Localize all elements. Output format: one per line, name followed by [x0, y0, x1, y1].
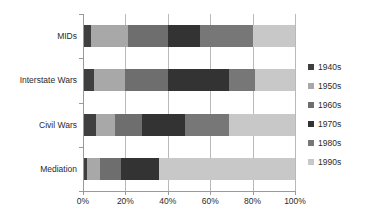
bar-segment	[229, 69, 254, 91]
bar-segment	[255, 69, 295, 91]
bar-segment	[200, 25, 253, 47]
category-label-mids: MIDs	[57, 31, 77, 41]
legend-swatch-icon	[308, 140, 314, 146]
bar-row	[83, 25, 295, 47]
x-tick-mark	[168, 191, 169, 195]
bar-segment	[91, 25, 127, 47]
plot-area	[83, 14, 295, 191]
bar-segment	[121, 158, 159, 180]
bar-segment	[142, 114, 184, 136]
legend-swatch-icon	[308, 121, 314, 127]
legend-swatch-icon	[308, 159, 314, 165]
bar-segment	[168, 69, 229, 91]
legend-swatch-icon	[308, 83, 314, 89]
y-tick-mark	[79, 14, 83, 15]
bar-segment	[83, 25, 91, 47]
stacked-bar-chart: MIDsInterstate WarsCivil WarsMediation 0…	[0, 0, 366, 223]
legend-item-1940s[interactable]: 1940s	[308, 57, 341, 76]
bar-segment	[125, 69, 167, 91]
bar-segment	[115, 114, 143, 136]
bar-segment	[83, 69, 94, 91]
legend-label: 1970s	[318, 119, 341, 129]
y-tick-mark	[79, 147, 83, 148]
category-label-mediation: Mediation	[40, 164, 77, 174]
x-tick-mark	[125, 191, 126, 195]
legend-swatch-icon	[308, 102, 314, 108]
x-tick-mark	[253, 191, 254, 195]
x-tick-label: 100%	[284, 196, 306, 207]
legend-label: 1960s	[318, 100, 341, 110]
category-label-civil-wars: Civil Wars	[39, 120, 77, 130]
bar-segment	[100, 158, 121, 180]
legend-label: 1980s	[318, 138, 341, 148]
category-label-interstate-wars: Interstate Wars	[20, 75, 77, 85]
x-tick-label: 40%	[159, 196, 176, 207]
legend-item-1960s[interactable]: 1960s	[308, 95, 341, 114]
x-tick-mark	[295, 191, 296, 195]
x-tick-label: 60%	[202, 196, 219, 207]
legend-label: 1940s	[318, 62, 341, 72]
bar-segment	[168, 25, 200, 47]
legend-swatch-icon	[308, 64, 314, 70]
x-tick-label: 20%	[117, 196, 134, 207]
bar-segment	[185, 114, 230, 136]
x-tick-mark	[83, 191, 84, 195]
bar-segment	[253, 25, 295, 47]
y-tick-mark	[79, 58, 83, 59]
y-tick-mark	[79, 103, 83, 104]
bar-row	[83, 69, 295, 91]
legend-item-1970s[interactable]: 1970s	[308, 114, 341, 133]
y-axis-line	[83, 14, 84, 191]
gridline-100	[295, 14, 296, 191]
bar-row	[83, 114, 295, 136]
legend-item-1980s[interactable]: 1980s	[308, 133, 341, 152]
bar-segment	[96, 114, 115, 136]
bar-segment	[128, 25, 168, 47]
bar-segment	[83, 114, 96, 136]
legend-item-1950s[interactable]: 1950s	[308, 76, 341, 95]
x-tick-label: 80%	[244, 196, 261, 207]
bar-row	[83, 158, 295, 180]
legend-item-1990s[interactable]: 1990s	[308, 152, 341, 171]
bar-segment	[229, 114, 295, 136]
bar-segment	[94, 69, 126, 91]
bar-segment	[87, 158, 100, 180]
legend-label: 1990s	[318, 157, 341, 167]
x-tick-mark	[210, 191, 211, 195]
x-tick-label: 0%	[77, 196, 89, 207]
x-axis-line	[83, 191, 295, 192]
legend-label: 1950s	[318, 81, 341, 91]
bar-segment	[159, 158, 295, 180]
chart-legend: 1940s1950s1960s1970s1980s1990s	[308, 57, 341, 171]
